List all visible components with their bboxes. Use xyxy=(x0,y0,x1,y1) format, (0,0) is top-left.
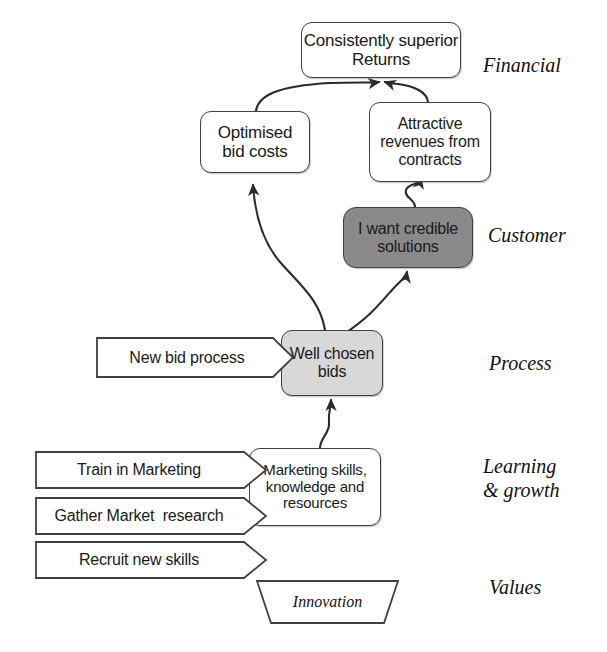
perspective-label-process: Process xyxy=(489,352,552,376)
perspective-label-customer: Customer xyxy=(488,224,566,248)
arrow-skills-to-bids xyxy=(320,400,331,448)
strategy-map-canvas: Consistently superior Returns Optimised … xyxy=(0,0,607,652)
initiative-train-in-marketing[interactable]: Train in Marketing xyxy=(35,451,267,489)
initiative-gather-market-research[interactable]: Gather Market research xyxy=(35,497,267,535)
objective-consistently-superior-returns[interactable]: Consistently superior Returns xyxy=(301,22,461,78)
arrow-bids-to-optimised xyxy=(253,185,325,330)
initiative-train-in-marketing-label: Train in Marketing xyxy=(35,451,243,489)
initiative-new-bid-process-label: New bid process xyxy=(96,337,278,378)
perspective-label-values: Values xyxy=(489,576,541,600)
initiative-gather-market-research-label: Gather Market research xyxy=(35,497,243,535)
arrow-bids-to-customer xyxy=(344,272,407,334)
objective-marketing-skills-knowledge-resources[interactable]: Marketing skills, knowledge and resource… xyxy=(249,448,381,526)
values-innovation-label: Innovation xyxy=(256,580,399,624)
objective-attractive-revenues-from-contracts[interactable]: Attractive revenues from contracts xyxy=(369,102,491,182)
initiative-new-bid-process[interactable]: New bid process xyxy=(96,337,294,378)
perspective-label-financial: Financial xyxy=(483,54,561,78)
arrow-revenues-to-returns xyxy=(385,82,428,102)
initiative-recruit-new-skills[interactable]: Recruit new skills xyxy=(35,541,267,579)
objective-i-want-credible-solutions[interactable]: I want credible solutions xyxy=(343,207,473,268)
arrow-customer-to-revenues xyxy=(406,178,421,207)
perspective-label-learning-and-growth: Learning & growth xyxy=(483,455,560,502)
objective-well-chosen-bids[interactable]: Well chosen bids xyxy=(281,330,383,396)
initiative-recruit-new-skills-label: Recruit new skills xyxy=(35,541,243,579)
values-innovation-shape[interactable]: Innovation xyxy=(256,580,399,624)
objective-optimised-bid-costs[interactable]: Optimised bid costs xyxy=(200,111,310,173)
arrow-optimised-to-returns xyxy=(256,82,379,111)
